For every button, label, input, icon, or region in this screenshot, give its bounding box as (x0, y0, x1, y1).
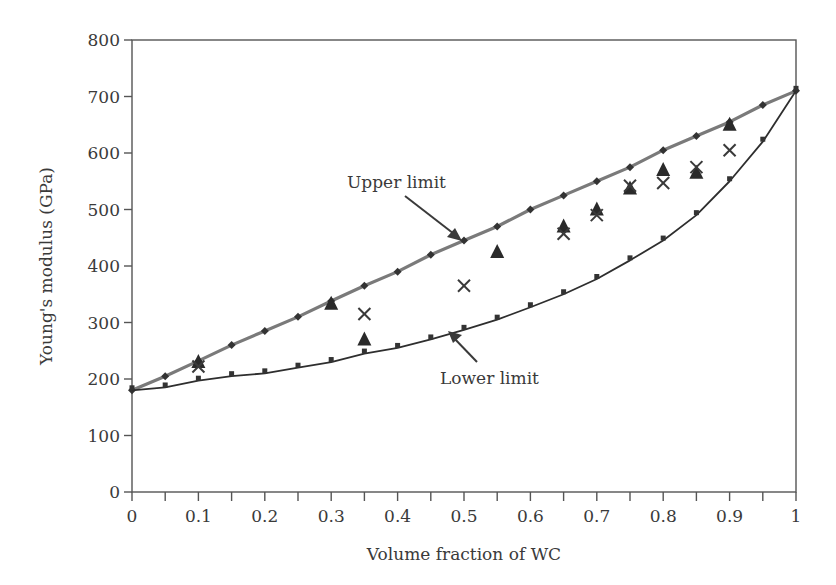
square-marker (428, 334, 433, 339)
plot-border (132, 40, 796, 492)
triangle-marker (490, 244, 504, 258)
square-marker (594, 274, 599, 279)
x-tick-label: 0.7 (583, 506, 610, 526)
lower-limit-label: Lower limit (440, 368, 539, 388)
square-marker (163, 382, 168, 387)
square-marker (628, 255, 633, 260)
square-marker (362, 349, 367, 354)
y-tick-label: 600 (88, 143, 120, 163)
square-marker (130, 385, 135, 390)
y-tick-label: 100 (88, 426, 120, 446)
y-tick-label: 0 (109, 482, 120, 502)
plot-frame (132, 40, 796, 492)
y-tick-label: 700 (88, 87, 120, 107)
y-tick-label: 200 (88, 369, 120, 389)
square-marker (760, 137, 765, 142)
square-marker (561, 289, 566, 294)
x-tick-label: 0 (127, 506, 138, 526)
y-tick-label: 500 (88, 200, 120, 220)
y-tick-label: 800 (88, 30, 120, 50)
square-marker (661, 236, 666, 241)
square-marker (495, 315, 500, 320)
x-tick-label: 0.5 (450, 506, 477, 526)
square-marker (329, 357, 334, 362)
chart-canvas: 0100200300400500600700800 00.10.20.30.40… (0, 0, 836, 585)
y-tick-label: 300 (88, 313, 120, 333)
y-tick-label: 400 (88, 256, 120, 276)
square-marker (794, 86, 799, 91)
square-marker (727, 176, 732, 181)
square-marker (262, 368, 267, 373)
x-axis-title: Volume fraction of WC (366, 544, 561, 564)
x-axis: 00.10.20.30.40.50.60.70.80.91 (127, 492, 802, 526)
x-tick-label: 0.2 (251, 506, 278, 526)
triangle-marker (590, 202, 604, 216)
x-tick-label: 0.8 (650, 506, 677, 526)
y-axis: 0100200300400500600700800 (88, 30, 132, 502)
triangle-marker (656, 162, 670, 176)
square-marker (694, 210, 699, 215)
triangle-marker (623, 181, 637, 195)
upper-limit-arrow (405, 196, 458, 237)
square-marker (528, 302, 533, 307)
x-tick-label: 0.3 (318, 506, 345, 526)
series-experimental-cross (192, 144, 735, 372)
x-tick-label: 1 (791, 506, 802, 526)
x-tick-label: 0.4 (384, 506, 411, 526)
triangle-marker (357, 331, 371, 345)
square-marker (196, 376, 201, 381)
x-tick-label: 0.6 (517, 506, 544, 526)
x-tick-label: 0.9 (716, 506, 743, 526)
square-marker (229, 371, 234, 376)
x-tick-label: 0.1 (185, 506, 212, 526)
triangle-marker (557, 218, 571, 232)
square-marker (395, 343, 400, 348)
upper-limit-label: Upper limit (347, 172, 446, 192)
y-axis-title: Young's modulus (GPa) (36, 167, 56, 366)
square-marker (462, 325, 467, 330)
square-marker (296, 363, 301, 368)
